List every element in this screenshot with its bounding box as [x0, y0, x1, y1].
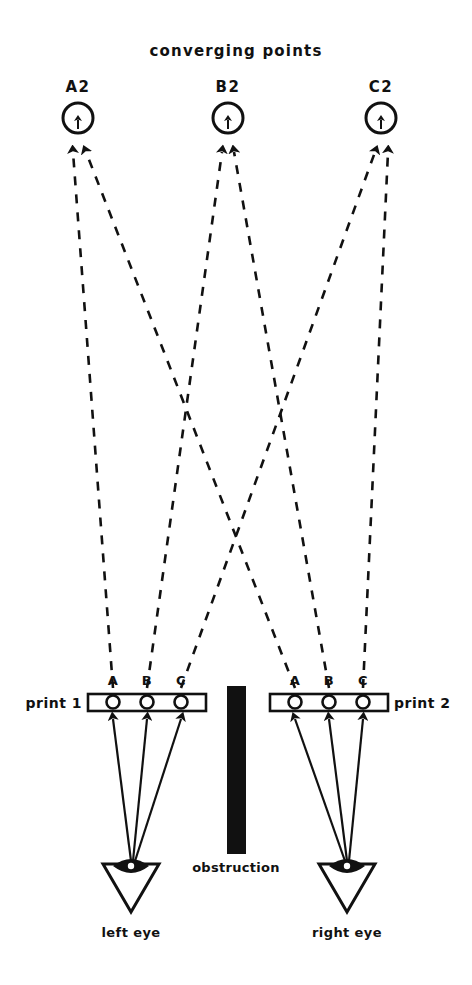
converging-point-label-A2: A2 [65, 78, 90, 96]
projection-lines-group [73, 152, 388, 688]
print-2-group: A B C print 2 [270, 673, 451, 711]
converging-point-A2: A2 [63, 78, 93, 133]
sight-line-left-eye-to-C [135, 719, 181, 861]
print-2-point-C-circle [357, 696, 370, 709]
left-eye-group: left eye [102, 859, 161, 940]
left-eye-label: left eye [102, 925, 161, 940]
converging-point-label-C2: C2 [369, 78, 393, 96]
obstruction-bar [227, 686, 246, 854]
projection-line-print1-A-to-A2 [73, 152, 113, 688]
print-1-group: A B C print 1 [26, 673, 207, 711]
print-1-point-C-circle [175, 696, 188, 709]
print-2-point-A-label: A [290, 673, 301, 688]
sight-line-right-eye-to-C [349, 719, 363, 861]
print-2-point-A-circle [289, 696, 302, 709]
right-eye-label: right eye [312, 925, 382, 940]
diagram-title: converging points [149, 42, 322, 60]
projection-line-print1-C-to-C2 [181, 152, 375, 688]
projection-line-print2-B-to-B2 [234, 152, 329, 688]
converging-point-B2: B2 [213, 78, 243, 133]
converging-points-diagram: converging points A2 B2 [0, 0, 472, 985]
projection-line-print2-A-to-A2 [86, 152, 295, 688]
print-2-label: print 2 [394, 695, 451, 711]
left-eye-pupil [128, 863, 134, 869]
obstruction-label: obstruction [192, 860, 280, 875]
print-1-label: print 1 [26, 695, 83, 711]
projection-line-print1-B-to-B2 [147, 152, 222, 688]
sight-line-left-eye-to-B [133, 719, 147, 861]
diagram-canvas: converging points A2 B2 [0, 0, 472, 985]
print-2-point-C-label: C [358, 673, 368, 688]
sight-line-left-eye-to-A [113, 719, 131, 861]
print-1-point-A-label: A [108, 673, 119, 688]
print-1-point-B-circle [141, 696, 154, 709]
print-2-point-B-label: B [324, 673, 334, 688]
print-1-point-C-label: C [176, 673, 186, 688]
converging-point-label-B2: B2 [216, 78, 241, 96]
print-2-point-B-circle [323, 696, 336, 709]
projection-line-print2-C-to-C2 [363, 152, 388, 688]
print-1-point-A-circle [107, 696, 120, 709]
print-1-point-B-label: B [142, 673, 152, 688]
right-eye-pupil [344, 863, 350, 869]
converging-point-C2: C2 [366, 78, 396, 133]
right-eye-group: right eye [312, 859, 382, 940]
